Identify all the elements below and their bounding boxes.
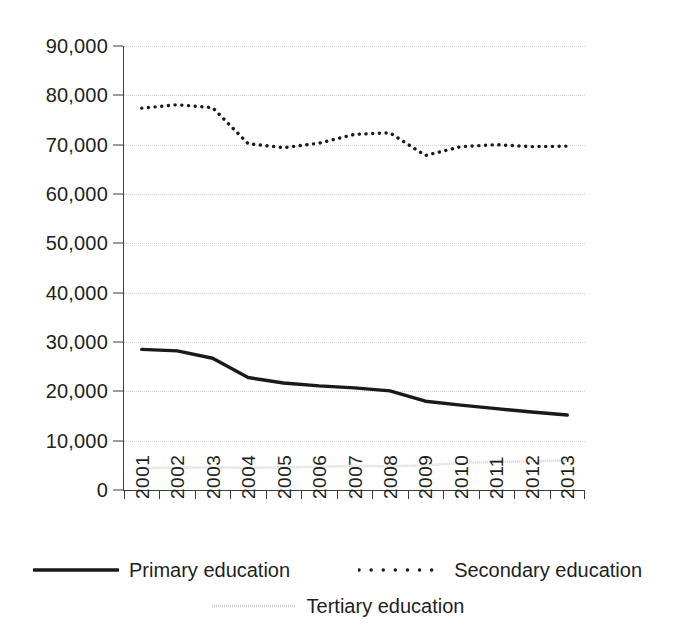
y-tick-label: 40,000: [46, 283, 108, 303]
y-tick-mark: [113, 46, 123, 47]
x-tick-label: 2008: [380, 455, 399, 499]
x-tick-mark: [514, 490, 515, 499]
x-tick-label: 2013: [558, 455, 577, 499]
x-tick-mark: [159, 490, 160, 499]
y-tick-mark: [113, 95, 123, 96]
x-tick-mark: [584, 490, 585, 499]
line-chart-figure: 010,00020,00030,00040,00050,00060,00070,…: [0, 0, 675, 629]
y-axis: 010,00020,00030,00040,00050,00060,00070,…: [0, 0, 108, 500]
y-tick-label: 10,000: [46, 431, 108, 451]
x-axis-labels: 2001200220032004200520062007200820092010…: [124, 499, 585, 557]
y-tick-label: 70,000: [46, 135, 108, 155]
legend-item[interactable]: Primary education: [33, 560, 290, 580]
legend-row-top: Primary educationSecondary education: [0, 552, 675, 588]
y-tick-label: 60,000: [46, 184, 108, 204]
x-tick-mark: [479, 490, 480, 499]
plot-wrapper: 010,00020,00030,00040,00050,00060,00070,…: [0, 0, 675, 500]
series-line-0: [142, 349, 568, 415]
x-tick-label: 2006: [310, 455, 329, 499]
y-tick-label: 0: [97, 480, 108, 500]
x-tick-label: 2004: [239, 455, 258, 499]
y-tick-mark: [113, 194, 123, 195]
legend-label: Primary education: [129, 560, 290, 580]
legend-item[interactable]: Tertiary education: [211, 596, 465, 616]
y-tick-mark: [113, 342, 123, 343]
legend-item[interactable]: Secondary education: [358, 560, 642, 580]
x-tick-label: 2005: [274, 455, 293, 499]
x-tick-mark: [301, 490, 302, 499]
chart-legend: Primary educationSecondary education Ter…: [0, 552, 675, 629]
plot-area: [124, 46, 585, 490]
x-tick-label: 2010: [451, 455, 470, 499]
y-tick-mark: [113, 490, 123, 491]
legend-label: Tertiary education: [307, 596, 465, 616]
series-layer: [124, 46, 585, 490]
x-tick-mark: [550, 490, 551, 499]
x-tick-mark: [124, 490, 125, 499]
x-tick-label: 2011: [487, 456, 506, 499]
y-tick-mark: [113, 292, 123, 293]
solid-line-swatch: [33, 563, 119, 577]
x-tick-mark: [230, 490, 231, 499]
x-tick-mark: [266, 490, 267, 499]
y-tick-mark: [113, 243, 123, 244]
x-tick-mark: [443, 490, 444, 499]
y-tick-mark: [113, 144, 123, 145]
x-tick-mark: [195, 490, 196, 499]
y-tick-label: 80,000: [46, 85, 108, 105]
y-tick-label: 50,000: [46, 233, 108, 253]
x-tick-mark: [337, 490, 338, 499]
x-tick-label: 2007: [345, 455, 364, 499]
x-tick-mark: [372, 490, 373, 499]
x-tick-mark: [408, 490, 409, 499]
x-tick-label: 2003: [203, 455, 222, 499]
legend-label: Secondary education: [454, 560, 642, 580]
x-tick-label: 2001: [132, 455, 151, 499]
y-tick-mark: [113, 440, 123, 441]
y-tick-mark: [113, 391, 123, 392]
dotted-line-swatch: [358, 563, 444, 577]
y-tick-label: 30,000: [46, 332, 108, 352]
fine-dotted-line-swatch: [211, 599, 297, 613]
x-tick-label: 2009: [416, 455, 435, 499]
y-tick-label: 20,000: [46, 381, 108, 401]
series-line-1: [142, 105, 568, 156]
x-tick-label: 2012: [522, 455, 541, 499]
x-tick-label: 2002: [168, 455, 187, 499]
legend-row-bottom: Tertiary education: [0, 588, 675, 624]
y-tick-label: 90,000: [46, 36, 108, 56]
